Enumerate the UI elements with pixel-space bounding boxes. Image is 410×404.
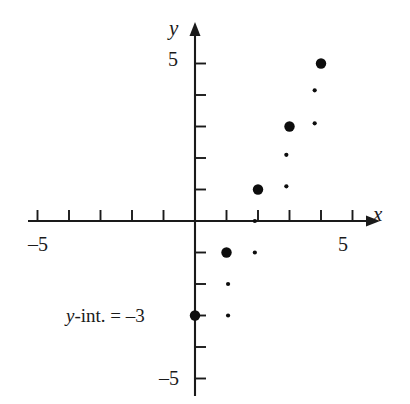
y-tick-label-positive-5: 5: [168, 49, 178, 69]
y-intercept-annotation-text: -int. = –3: [74, 305, 144, 326]
data-point: [253, 184, 263, 194]
figure-canvas: x y –5 5 5 –5 y-int. = –3: [0, 0, 410, 404]
slope-step-dot: [313, 121, 317, 125]
axes-group: [28, 22, 380, 396]
slope-step-dot: [253, 219, 257, 223]
x-tick-label-positive-5: 5: [338, 234, 348, 254]
data-point: [284, 121, 294, 131]
y-axis-arrowhead: [190, 22, 201, 36]
data-point: [190, 310, 200, 320]
y-axis-label: y: [169, 18, 178, 39]
y-intercept-annotation: y-int. = –3: [66, 306, 145, 325]
slope-step-dot: [284, 184, 288, 188]
slope-step-dot: [313, 88, 317, 92]
slope-step-dot: [226, 282, 230, 286]
slope-step-dot: [226, 313, 230, 317]
small-dots-group: [226, 88, 317, 317]
x-tick-label-negative-5: –5: [28, 234, 48, 254]
slope-step-dot: [284, 153, 288, 157]
y-tick-label-negative-5: –5: [159, 368, 179, 388]
data-point: [316, 58, 326, 68]
coordinate-plot-svg: [0, 0, 410, 404]
big-dots-group: [190, 58, 326, 320]
data-point: [221, 247, 231, 257]
x-axis-label: x: [373, 204, 382, 225]
slope-step-dot: [253, 250, 257, 254]
